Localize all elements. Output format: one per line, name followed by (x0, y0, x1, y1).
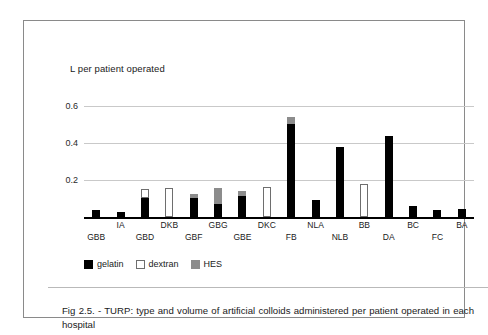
x-tick-label-bc: BC (407, 220, 419, 230)
x-tick-label-da: DA (383, 232, 395, 242)
x-tick-label-bb: BB (359, 220, 370, 230)
bar-segment-dextran (165, 188, 173, 217)
bar-group[interactable] (214, 188, 222, 217)
bar-group[interactable] (263, 187, 271, 217)
y-tick-label: 0.6 (65, 101, 78, 111)
chart-legend: gelatindextranHES (84, 259, 229, 269)
bar-segment-gelatin (385, 136, 393, 217)
bars-layer (84, 91, 474, 217)
y-tick-label: 0.4 (65, 138, 78, 148)
y-tick-label: 0.2 (65, 175, 78, 185)
bar-group[interactable] (360, 184, 368, 217)
bar-segment-dextran (360, 184, 368, 217)
x-axis-labels: GBBIAGBDDKBGBFGBGGBEDKCFBNLANLBBBDABCFCB… (84, 220, 474, 250)
x-tick-label-gbd: GBD (136, 232, 154, 242)
bar-group[interactable] (141, 189, 149, 217)
bar-segment-gelatin (117, 212, 125, 217)
x-axis-line (84, 217, 474, 219)
bar-group[interactable] (312, 200, 320, 217)
bar-group[interactable] (336, 147, 344, 217)
x-tick-label-dkb: DKB (161, 220, 178, 230)
legend-swatch-gelatin (84, 260, 93, 269)
bar-segment-gelatin (458, 209, 466, 217)
bar-segment-dextran (141, 189, 149, 198)
bar-segment-hes (287, 117, 295, 124)
y-axis-title: L per patient operated (70, 63, 165, 74)
bar-segment-hes (214, 188, 222, 204)
bar-segment-gelatin (409, 206, 417, 217)
legend-item-hes[interactable]: HES (191, 259, 223, 269)
bar-segment-gelatin (312, 200, 320, 217)
x-tick-label-fc: FC (432, 232, 443, 242)
figure-frame: L per patient operated 0.20.40.6 GBBIAGB… (23, 20, 465, 318)
x-tick-label-nla: NLA (307, 220, 324, 230)
x-tick-label-ba: BA (456, 220, 467, 230)
legend-item-gelatin[interactable]: gelatin (84, 259, 124, 269)
bar-group[interactable] (165, 188, 173, 217)
x-tick-label-dkc: DKC (258, 220, 276, 230)
bar-group[interactable] (190, 194, 198, 217)
bar-segment-gelatin (190, 198, 198, 217)
bar-group[interactable] (433, 210, 441, 217)
caption-divider (48, 287, 488, 288)
bar-group[interactable] (458, 209, 466, 217)
legend-swatch-dextran (136, 260, 145, 269)
bar-group[interactable] (409, 206, 417, 217)
bar-segment-gelatin (336, 147, 344, 217)
bar-segment-gelatin (214, 204, 222, 217)
x-tick-label-gbe: GBE (233, 232, 251, 242)
legend-label-hes: HES (204, 259, 223, 269)
bar-group[interactable] (117, 212, 125, 217)
bar-segment-gelatin (238, 196, 246, 217)
legend-swatch-hes (191, 260, 200, 269)
legend-label-dextran: dextran (149, 259, 179, 269)
x-tick-label-fb: FB (286, 232, 297, 242)
bar-segment-gelatin (433, 210, 441, 217)
x-tick-label-gbb: GBB (87, 232, 105, 242)
bar-group[interactable] (385, 136, 393, 217)
bar-segment-gelatin (92, 210, 100, 217)
legend-label-gelatin: gelatin (97, 259, 124, 269)
figure-caption: Fig 2.5. - TURP: type and volume of arti… (62, 304, 474, 332)
x-tick-label-ia: IA (117, 220, 125, 230)
x-tick-label-gbg: GBG (209, 220, 228, 230)
bar-segment-gelatin (287, 124, 295, 217)
bar-segment-dextran (263, 187, 271, 217)
legend-item-dextran[interactable]: dextran (136, 259, 179, 269)
x-tick-label-gbf: GBF (185, 232, 202, 242)
bar-group[interactable] (287, 117, 295, 217)
x-tick-label-nlb: NLB (332, 232, 349, 242)
bar-group[interactable] (238, 191, 246, 217)
bar-segment-gelatin (141, 198, 149, 217)
bar-group[interactable] (92, 210, 100, 217)
